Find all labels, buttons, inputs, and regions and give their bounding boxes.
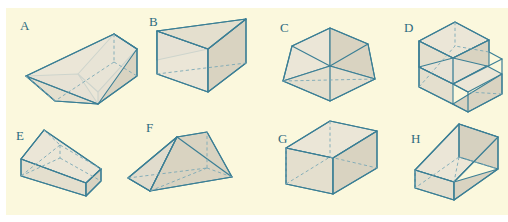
solid-e-label: E (16, 128, 24, 143)
solid-b: B (149, 14, 246, 92)
solid-h-label: H (411, 131, 421, 146)
solid-c-label: C (280, 20, 289, 35)
solid-g: G (278, 121, 377, 194)
solid-f: F (128, 120, 232, 191)
geometric-solids-figure: A B C (0, 0, 508, 222)
solid-a-label: A (20, 18, 30, 33)
solid-a: A (20, 18, 137, 104)
solid-b-label: B (149, 14, 158, 29)
solid-g-label: G (278, 131, 288, 146)
solid-f-label: F (146, 120, 153, 135)
solid-a-top-slope (26, 34, 137, 104)
solid-h: H (411, 124, 498, 200)
solid-d-label: D (404, 20, 414, 35)
solids-illustration: A B C (0, 0, 508, 222)
solid-e: E (16, 128, 101, 196)
solid-c: C (280, 20, 375, 101)
solid-d: D (404, 20, 502, 112)
